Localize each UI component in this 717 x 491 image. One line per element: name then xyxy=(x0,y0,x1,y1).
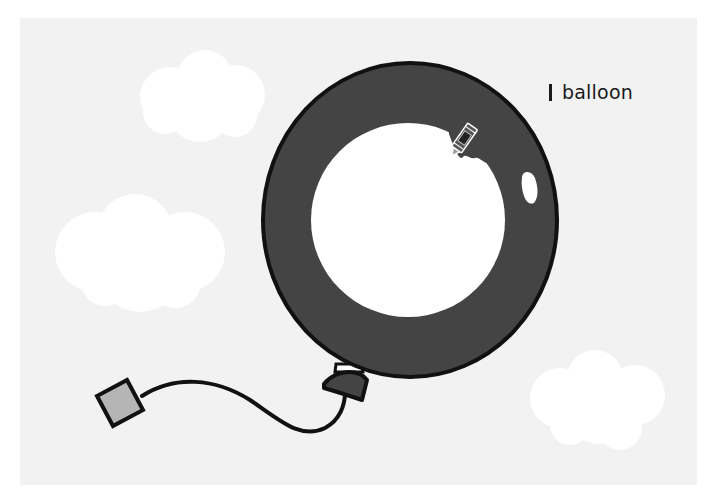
word-label: balloon xyxy=(549,78,633,106)
word-label-text: balloon xyxy=(562,81,633,103)
coloring-canvas[interactable] xyxy=(0,0,717,491)
cloud-mid-left xyxy=(55,194,225,312)
label-bar-icon xyxy=(549,84,552,101)
balloon-string xyxy=(142,382,345,432)
balloon-tag[interactable] xyxy=(97,380,143,426)
cloud-top-left xyxy=(140,50,265,142)
cloud-bottom-right xyxy=(530,350,665,450)
